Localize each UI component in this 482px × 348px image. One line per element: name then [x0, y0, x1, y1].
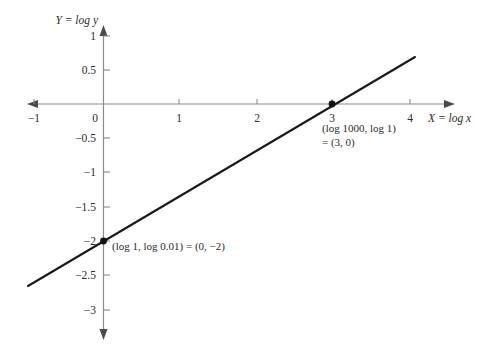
y-tick-label-0-5: 0.5 [82, 64, 97, 76]
x-tick-label-0: 0 [92, 112, 98, 124]
x-axis: −1 0 1 2 3 4 X = log x [27, 99, 472, 125]
data-point-upper-intercept [329, 101, 336, 108]
x-axis-left-arrow-icon [27, 100, 38, 108]
y-tick-label-minus-2: −2 [84, 235, 96, 247]
y-tick-label-minus-1: −1 [84, 166, 96, 178]
x-axis-right-arrow-icon [444, 100, 455, 108]
y-axis-down-arrow-icon [100, 329, 108, 340]
y-tick-label-minus-3: −3 [84, 304, 96, 316]
x-axis-label: X = log x [427, 112, 472, 125]
y-tick-label-minus-1-5: −1.5 [75, 201, 96, 213]
y-tick-label-minus-0-5: −0.5 [75, 132, 96, 144]
y-tick-label-1: 1 [90, 30, 96, 42]
annotation-lower-point: (log 1, log 0.01) = (0, −2) [112, 240, 225, 253]
chart-svg: −1 0 1 2 3 4 X = log x 1 0.5 −0.5 −1 − [0, 0, 482, 348]
y-axis-up-arrow-icon [100, 25, 108, 36]
x-tick-label-2: 2 [254, 112, 260, 124]
y-axis-label: Y = log y [55, 14, 98, 27]
log-log-plot-figure: −1 0 1 2 3 4 X = log x 1 0.5 −0.5 −1 − [0, 0, 482, 348]
x-tick-label-4: 4 [407, 112, 413, 124]
annotations-group: (log 1, log 0.01) = (0, −2) (log 1000, l… [112, 122, 396, 253]
y-axis: 1 0.5 −0.5 −1 −1.5 −2 −2.5 −3 Y = log y [55, 14, 110, 340]
annotation-upper-point-line1: (log 1000, log 1) [322, 122, 396, 135]
annotation-upper-point-line2: = (3, 0) [322, 136, 355, 149]
x-tick-label-minus-1: −1 [28, 112, 40, 124]
data-point-lower-intercept [100, 238, 107, 245]
x-tick-label-1: 1 [176, 112, 182, 124]
y-tick-label-minus-2-5: −2.5 [75, 269, 96, 281]
